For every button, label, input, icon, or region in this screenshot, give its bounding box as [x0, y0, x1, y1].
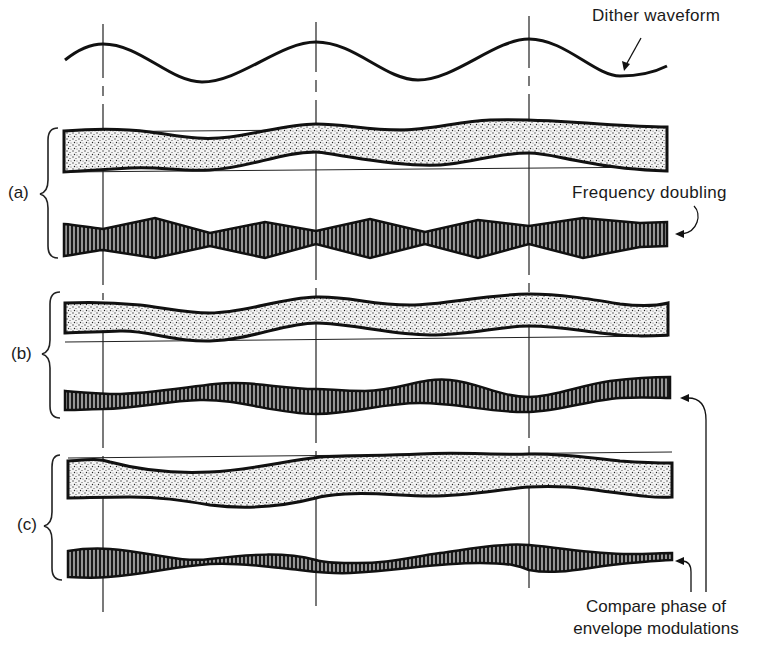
dither-waveform	[65, 39, 667, 82]
transmission-band-a	[64, 120, 667, 172]
dither-waveform-label: Dither waveform	[592, 6, 720, 26]
group-c	[44, 452, 672, 580]
compare-phase-label-line1: Compare phase of	[556, 596, 756, 618]
compare-phase-arrows	[675, 394, 706, 592]
dither-envelope-diagram	[0, 0, 761, 646]
compare-phase-label-line2: envelope modulations	[556, 618, 756, 640]
envelope-signal-b	[65, 377, 670, 414]
transmission-band-b	[65, 294, 668, 341]
envelope-signal-a	[64, 218, 667, 258]
dither-arrow	[622, 38, 641, 71]
frequency-doubling-label: Frequency doubling	[572, 183, 727, 203]
bracket-c	[44, 455, 62, 580]
compare-phase-label: Compare phase of envelope modulations	[556, 596, 756, 640]
envelope-signal-c	[68, 545, 672, 578]
bracket-a	[40, 128, 58, 258]
group-label-a: (a)	[8, 183, 29, 203]
group-b	[42, 292, 670, 418]
group-label-c: (c)	[17, 515, 37, 535]
group-label-b: (b)	[11, 344, 32, 364]
bracket-b	[42, 292, 60, 418]
frequency-doubling-arrow	[675, 206, 698, 238]
transmission-band-c	[68, 453, 672, 507]
